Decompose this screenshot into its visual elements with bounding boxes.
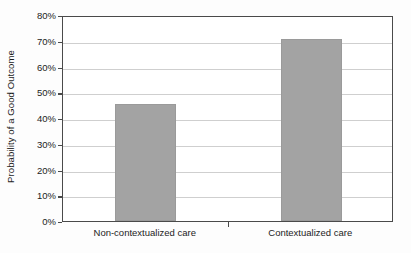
x-axis-tick-label: Contextualized care (268, 227, 352, 239)
bar-chart-figure: Probability of a Good Outcome 0%10%20%30… (0, 0, 411, 253)
y-axis-tick-label: 0% (20, 217, 56, 227)
y-axis-title-label: Probability of a Good Outcome (5, 50, 16, 183)
bar-series (63, 17, 392, 221)
y-axis-tick-label: 80% (20, 11, 56, 21)
bar (115, 104, 176, 221)
y-axis-tick-label: 70% (20, 37, 56, 47)
y-axis-tick-label: 40% (20, 114, 56, 124)
y-axis-tick-labels: 0%10%20%30%40%50%60%70%80% (18, 0, 56, 253)
y-axis-tick-label: 20% (20, 166, 56, 176)
y-axis-tick-label: 30% (20, 140, 56, 150)
y-axis-tick-label: 60% (20, 63, 56, 73)
x-axis-tick-label: Non-contextualized care (94, 227, 196, 239)
bar (281, 39, 342, 221)
y-axis-tick-label: 10% (20, 191, 56, 201)
y-axis-tick-label: 50% (20, 88, 56, 98)
x-axis-tick-labels: Non-contextualized careContextualized ca… (62, 227, 393, 245)
plot-area (62, 16, 393, 222)
y-axis-title: Probability of a Good Outcome (0, 0, 20, 232)
